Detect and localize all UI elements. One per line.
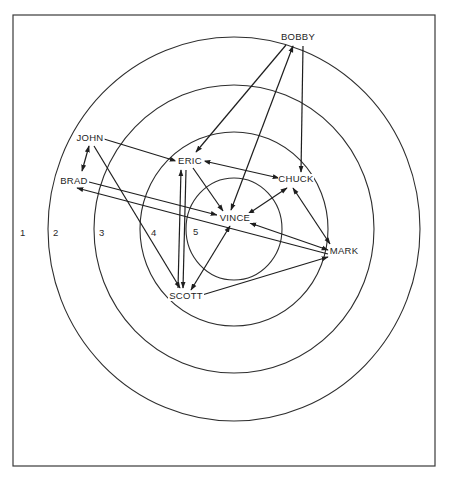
arrow-scott-to-eric <box>178 170 181 288</box>
arrow-eric-to-chuck <box>204 161 279 178</box>
ring-label-2: 2 <box>53 227 58 238</box>
ring-label-4: 4 <box>151 227 156 238</box>
arrow-eric-to-vince <box>193 168 223 211</box>
node-eric: ERIC <box>178 155 202 166</box>
arrow-bobby-to-eric <box>196 45 286 152</box>
sociogram-diagram: 12345 BOBBYJOHNERICBRADCHUCKVINCEMARKSCO… <box>0 0 449 478</box>
ring-label-3: 3 <box>99 227 104 238</box>
node-mark: MARK <box>330 245 359 256</box>
arrow-vince-to-bobby <box>231 46 293 210</box>
diagram-frame <box>13 15 435 466</box>
arrow-bobby-to-chuck <box>301 46 303 172</box>
ring-label-1: 1 <box>20 227 25 238</box>
node-chuck: CHUCK <box>278 173 314 184</box>
arrow-brad-to-vince <box>89 182 217 215</box>
arrow-chuck-to-mark <box>293 188 330 244</box>
arrow-john-to-scott <box>94 146 180 288</box>
ring-label-5: 5 <box>193 226 198 237</box>
node-scott: SCOTT <box>169 290 203 301</box>
relationship-arrows <box>77 45 330 295</box>
node-vince: VINCE <box>220 212 251 223</box>
node-bobby: BOBBY <box>281 31 316 42</box>
arrow-john-to-eric <box>104 139 176 161</box>
arrow-scott-to-mark <box>202 257 328 295</box>
node-brad: BRAD <box>60 175 88 186</box>
arrow-mark-to-brad <box>77 188 328 254</box>
ring-labels: 12345 <box>20 226 198 238</box>
arrow-john-to-brad <box>82 146 89 171</box>
target-sociogram: 12345 BOBBYJOHNERICBRADCHUCKVINCEMARKSCO… <box>0 0 449 478</box>
node-john: JOHN <box>76 132 103 143</box>
